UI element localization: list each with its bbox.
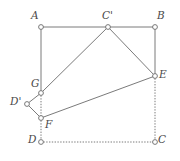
vertex-marker-C <box>153 140 158 145</box>
vertex-marker-Cp <box>106 25 111 30</box>
geometry-diagram: AC'BEGD'FDC <box>0 0 180 161</box>
vertex-label-Dp: D' <box>10 96 21 107</box>
vertex-label-B: B <box>157 10 165 21</box>
vertex-marker-B <box>153 25 158 30</box>
vertex-label-C: C <box>158 134 166 145</box>
vertex-marker-A <box>39 25 44 30</box>
edge-Cp-G <box>41 27 108 93</box>
vertex-marker-E <box>153 74 158 79</box>
vertex-label-E: E <box>159 69 167 80</box>
vertex-marker-D <box>39 140 44 145</box>
vertex-label-G: G <box>31 78 39 89</box>
vertex-marker-F <box>39 116 44 121</box>
edge-Dp-F <box>27 104 41 118</box>
diagram-canvas <box>0 0 180 161</box>
vertex-label-A: A <box>31 10 39 21</box>
edge-F-E <box>41 76 155 118</box>
vertex-label-Cp: C' <box>102 10 113 21</box>
vertex-label-D: D <box>28 134 36 145</box>
vertex-marker-G <box>39 91 44 96</box>
vertex-marker-Dp <box>25 102 30 107</box>
edge-Cp-E <box>108 27 155 76</box>
vertex-label-F: F <box>45 119 52 130</box>
